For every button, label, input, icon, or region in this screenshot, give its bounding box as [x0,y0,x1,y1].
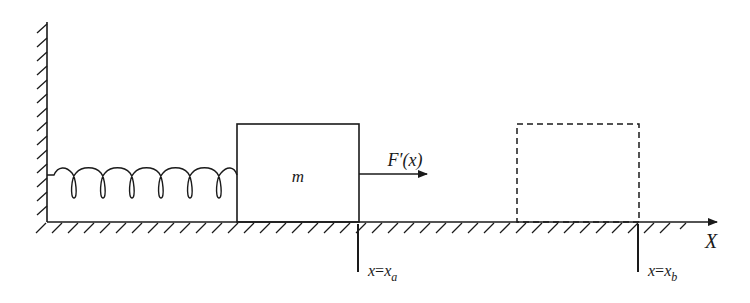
position-marker-a: x=xa [358,224,397,284]
spring-mass-diagram: m F′(x) x=xa x=xb X [0,0,750,303]
mass-block: m [237,124,359,222]
final-position-block [517,124,639,222]
mass-label: m [292,167,304,186]
position-marker-b: x=xb [638,224,677,284]
ground [36,222,717,233]
force-label: F′(x) [387,150,423,171]
spring [47,168,237,198]
ground-hatching [36,223,686,233]
x-axis-label: X [704,230,718,252]
force-arrow: F′(x) [359,150,427,174]
wall [37,22,47,222]
wall-hatching [37,24,47,215]
position-a-label: x=xa [367,262,397,284]
position-b-label: x=xb [647,262,677,284]
